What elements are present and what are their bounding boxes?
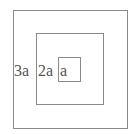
middle-square-label: 2a [38,63,53,79]
inner-square-label: a [60,63,67,79]
outer-square-label: 3a [14,63,29,79]
